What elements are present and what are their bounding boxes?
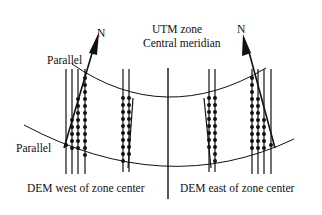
caption-east: DEM east of zone center — [180, 182, 294, 194]
parallel-label-bottom: Parallel — [16, 142, 51, 154]
east-outer-points — [250, 76, 273, 150]
north-label-right: N — [237, 23, 246, 35]
utm-dem-diagram: N N Parallel Parallel UTM zone Central m… — [0, 0, 322, 215]
parallel-top-curve — [72, 64, 266, 97]
north-arrow-left — [64, 32, 99, 148]
meridian-label-line1: UTM zone — [152, 23, 202, 35]
west-outer-points — [64, 76, 87, 157]
meridian-label-line2: Central meridian — [143, 37, 221, 49]
parallel-label-top: Parallel — [47, 54, 82, 66]
caption-west: DEM west of zone center — [27, 182, 145, 194]
north-label-left: N — [97, 27, 106, 39]
